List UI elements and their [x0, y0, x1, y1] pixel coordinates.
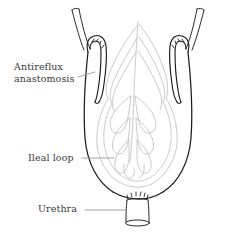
- urethral-stump: [126, 199, 150, 227]
- label-antireflux-line2: anastomosis: [14, 73, 74, 85]
- label-urethra: Urethra: [38, 203, 77, 215]
- ileal-neobladder-diagram: [0, 0, 226, 234]
- left-antireflux-sutures: [92, 39, 104, 48]
- right-antireflux-sutures: [172, 39, 184, 48]
- mucosal-folds: [97, 22, 177, 187]
- label-ileal-loop: Ileal loop: [28, 152, 74, 164]
- label-antireflux-line1: Antireflux: [14, 61, 63, 72]
- figure-canvas: Antireflux anastomosis Ileal loop Urethr…: [0, 0, 226, 234]
- label-antireflux-anastomosis: Antireflux anastomosis: [14, 61, 74, 84]
